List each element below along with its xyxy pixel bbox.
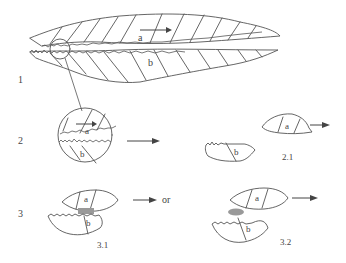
svg-text:a: a [285,121,289,131]
result-3-2: a b 3.2 [212,188,318,247]
fragment-hatched [78,208,94,214]
magnifier-circle [50,39,70,59]
hatch-lower [50,50,262,82]
svg-text:a: a [85,126,89,136]
result-3-1: a b or 3.1 [48,190,171,250]
caption-2-1: 2.1 [282,152,293,162]
arrow-right-icon [127,138,160,144]
svg-text:b: b [80,149,85,159]
svg-text:a: a [255,193,259,203]
label-b: b [148,57,153,68]
arrow-right-icon [133,197,157,203]
result-2-1: a b 2.1 [205,114,330,162]
magnified-view: a b [58,108,116,163]
arrow-right-icon [310,122,330,128]
svg-text:b: b [234,147,239,157]
svg-text:b: b [86,218,91,228]
or-label: or [162,194,171,205]
arrow-right-icon [292,195,318,201]
caption-3-1: 3.1 [97,240,108,250]
row-label-1: 1 [18,74,23,85]
specimen-full: a b [30,14,280,111]
fracture-diagram: a b 1 a b 2 a [0,0,346,263]
svg-text:b: b [246,224,251,234]
row-label-3: 3 [18,208,23,219]
caption-3-2: 3.2 [280,237,291,247]
fragment-hatched [228,209,244,216]
svg-text:a: a [84,194,88,204]
label-a: a [138,32,143,43]
row-label-2: 2 [18,135,23,146]
